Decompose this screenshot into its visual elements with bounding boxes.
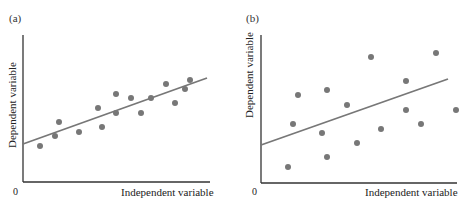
data-point-b xyxy=(368,54,374,60)
data-point-b xyxy=(403,78,409,84)
data-point-a xyxy=(99,124,105,130)
data-point-a xyxy=(113,110,119,116)
data-point-a xyxy=(187,77,193,83)
data-point-a xyxy=(52,133,58,139)
data-point-b xyxy=(295,92,301,98)
data-point-b xyxy=(403,107,409,113)
data-point-b xyxy=(418,121,424,127)
regression-line-b xyxy=(261,79,448,145)
data-point-a xyxy=(56,119,62,125)
data-point-b xyxy=(378,126,384,132)
data-point-a xyxy=(138,110,144,116)
data-point-b xyxy=(344,102,350,108)
data-point-a xyxy=(128,95,134,101)
data-point-a xyxy=(148,95,154,101)
data-point-a xyxy=(172,100,178,106)
data-point-b xyxy=(433,50,439,56)
data-point-b xyxy=(285,164,291,170)
data-point-a xyxy=(76,129,82,135)
data-point-b xyxy=(324,154,330,160)
data-point-a xyxy=(113,91,119,97)
data-point-b xyxy=(354,140,360,146)
data-point-b xyxy=(324,87,330,93)
data-point-a xyxy=(163,81,169,87)
data-point-a xyxy=(95,105,101,111)
data-point-a xyxy=(182,86,188,92)
data-point-a xyxy=(37,143,43,149)
data-point-b xyxy=(290,121,296,127)
data-point-b xyxy=(319,130,325,136)
data-point-b xyxy=(453,107,459,113)
scatter-plots-canvas xyxy=(0,0,474,210)
